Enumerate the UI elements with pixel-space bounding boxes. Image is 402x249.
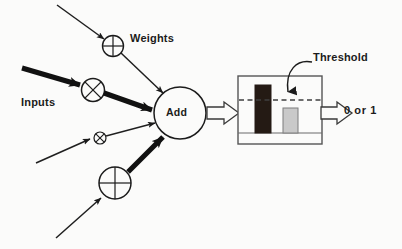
weight-to-sum-2 xyxy=(104,93,152,110)
input-line-3 xyxy=(36,139,90,163)
weight-to-sum-1 xyxy=(121,53,163,93)
input-line-4 xyxy=(56,198,101,238)
threshold-box xyxy=(238,76,322,144)
diagram-canvas: Weights Inputs Add Threshold 0 or 1 xyxy=(0,0,402,249)
weight-circle-4 xyxy=(99,167,131,199)
weights-label: Weights xyxy=(130,33,174,44)
summation-label: Add xyxy=(166,107,187,118)
weight-circle-1 xyxy=(103,36,124,57)
input-line-1 xyxy=(57,5,104,39)
input-line-2 xyxy=(22,68,80,85)
output-label: 0 or 1 xyxy=(344,105,377,116)
weight-circle-3 xyxy=(94,132,106,144)
bar-below-threshold xyxy=(283,108,298,133)
inputs-label: Inputs xyxy=(21,97,55,108)
weight-to-sum-4 xyxy=(128,137,163,172)
perceptron-diagram-svg xyxy=(0,0,402,249)
bar-above-threshold xyxy=(255,85,271,133)
threshold-label: Threshold xyxy=(313,52,368,63)
sum-to-threshold-arrow xyxy=(207,102,239,124)
weight-circle-2 xyxy=(82,79,105,102)
weight-to-sum-3 xyxy=(106,123,155,136)
input-lines xyxy=(22,5,104,238)
